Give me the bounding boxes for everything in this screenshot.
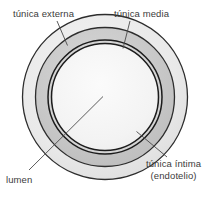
vessel-cross-section-diagram: túnica externa túnica media lumen túnica… — [0, 0, 217, 197]
label-tunica-intima-line2: (endotelio) — [146, 170, 201, 182]
label-lumen: lumen — [6, 174, 32, 186]
label-tunica-media: túnica media — [114, 8, 169, 20]
label-tunica-intima-line1: túnica íntima — [146, 158, 201, 169]
layer-lumen — [52, 44, 159, 151]
label-tunica-externa: túnica externa — [13, 8, 74, 20]
label-tunica-intima: túnica íntima(endotelio) — [146, 158, 201, 181]
